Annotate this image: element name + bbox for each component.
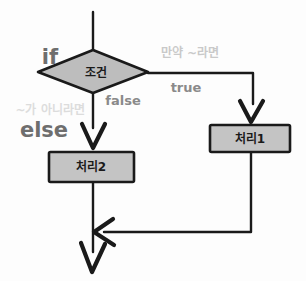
keyword-else-label: else xyxy=(20,118,68,142)
flowchart-canvas: 조건 처리1 처리2 if else true false 만약 ~라면 ~가 … xyxy=(0,0,306,281)
process-false-label: 처리2 xyxy=(76,159,106,174)
edge-false-label: false xyxy=(105,93,141,108)
keyword-if-label: if xyxy=(42,45,59,69)
arrowhead-into-process1 xyxy=(240,101,263,122)
flowchart-svg: 조건 처리1 처리2 if else true false 만약 ~라면 ~가 … xyxy=(0,0,306,281)
decision-label: 조건 xyxy=(85,65,107,80)
process-true-node[interactable]: 처리1 xyxy=(210,125,290,152)
edge-true-label: true xyxy=(171,80,202,95)
annotation-if-meaning: 만약 ~라면 xyxy=(161,45,219,60)
annotation-else-meaning: ~가 아니라면 xyxy=(15,102,84,117)
process-false-node[interactable]: 처리2 xyxy=(49,152,134,182)
process-true-label: 처리1 xyxy=(235,131,265,146)
